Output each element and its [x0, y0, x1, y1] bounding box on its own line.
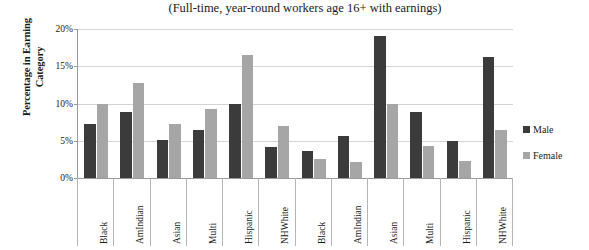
- y-axis-title: Percentage in Earning Category: [20, 0, 46, 147]
- bar-group: [259, 29, 295, 178]
- category-separator: [367, 178, 368, 246]
- bar-group: [223, 29, 259, 178]
- bar-male-multi-9: [410, 112, 422, 178]
- category-separator: [512, 178, 513, 246]
- x-axis-label-nhwhite-11: NHWhite: [498, 178, 508, 244]
- category-separator: [186, 178, 187, 246]
- bar-group: [368, 29, 404, 178]
- x-axis-label-asian-8: Asian: [389, 178, 399, 244]
- bar-female-nhwhite-5: [278, 126, 290, 178]
- y-tick-label: 20%: [33, 24, 73, 34]
- bar-male-black-6: [302, 151, 314, 178]
- legend-swatch-female: [523, 152, 530, 159]
- bar-group: [332, 29, 368, 178]
- chart-title: (Full-time, year-round workers age 16+ w…: [90, 1, 520, 15]
- x-axis-label-amindian-7: AmIndian: [353, 178, 363, 244]
- bar-female-hispanic-4: [242, 55, 254, 178]
- chart-legend: MaleFemale: [523, 124, 562, 176]
- category-separator: [440, 178, 441, 246]
- x-axis-label-nhwhite-5: NHWhite: [280, 178, 290, 244]
- bar-female-multi-9: [423, 146, 435, 178]
- bar-group: [296, 29, 332, 178]
- y-tick-label: 0%: [33, 173, 73, 183]
- y-tick-label: 5%: [33, 136, 73, 146]
- category-separator: [331, 178, 332, 246]
- chart-figure: (Full-time, year-round workers age 16+ w…: [0, 0, 589, 250]
- bar-male-asian-2: [157, 140, 169, 178]
- bar-group: [404, 29, 440, 178]
- x-axis-label-multi-3: Multi: [208, 178, 218, 244]
- bar-male-hispanic-4: [229, 104, 241, 179]
- bar-female-multi-3: [205, 109, 217, 178]
- x-axis-label-hispanic-4: Hispanic: [244, 178, 254, 244]
- category-separator: [77, 178, 78, 246]
- legend-item-male[interactable]: Male: [523, 124, 562, 135]
- bar-group: [187, 29, 223, 178]
- x-axis-label-asian-2: Asian: [172, 178, 182, 244]
- category-separator: [222, 178, 223, 246]
- bar-group: [441, 29, 477, 178]
- bar-female-amindian-1: [133, 83, 145, 178]
- x-axis-category-labels: BlackAmIndianAsianMultiHispanicNHWhiteBl…: [77, 178, 513, 248]
- bar-series-container: [78, 29, 513, 178]
- x-axis-label-black-6: Black: [317, 178, 327, 244]
- x-axis-label-amindian-1: AmIndian: [135, 178, 145, 244]
- x-axis-label-multi-9: Multi: [425, 178, 435, 244]
- legend-item-female[interactable]: Female: [523, 150, 562, 161]
- bar-group: [477, 29, 513, 178]
- bar-male-amindian-1: [120, 112, 132, 178]
- bar-female-hispanic-10: [459, 161, 471, 178]
- bar-female-black-0: [97, 104, 109, 179]
- bar-female-nhwhite-11: [495, 130, 507, 178]
- bar-male-hispanic-10: [447, 141, 459, 178]
- bar-female-amindian-7: [350, 162, 362, 178]
- legend-label-male: Male: [533, 124, 554, 135]
- x-axis-label-hispanic-10: Hispanic: [462, 178, 472, 244]
- category-separator: [476, 178, 477, 246]
- bar-group: [151, 29, 187, 178]
- category-separator: [295, 178, 296, 246]
- y-axis-title-line2: Category: [33, 0, 46, 147]
- category-separator: [258, 178, 259, 246]
- bar-male-nhwhite-11: [483, 57, 495, 178]
- legend-label-female: Female: [533, 150, 562, 161]
- bar-group: [78, 29, 114, 178]
- bar-male-black-0: [84, 124, 96, 178]
- bar-male-asian-8: [374, 36, 386, 178]
- legend-swatch-male: [523, 126, 530, 133]
- bar-male-amindian-7: [338, 136, 350, 178]
- category-separator: [113, 178, 114, 246]
- plot-area: [77, 29, 513, 178]
- category-separator: [150, 178, 151, 246]
- bar-female-asian-2: [169, 124, 181, 178]
- bar-male-nhwhite-5: [265, 147, 277, 178]
- category-separator: [403, 178, 404, 246]
- y-tick-label: 10%: [33, 99, 73, 109]
- y-axis-title-line1: Percentage in Earning: [21, 18, 32, 116]
- y-tick-label: 15%: [33, 61, 73, 71]
- bar-group: [114, 29, 150, 178]
- bar-female-asian-8: [387, 104, 399, 179]
- bar-female-black-6: [314, 159, 326, 178]
- x-axis-label-black-0: Black: [99, 178, 109, 244]
- bar-male-multi-3: [193, 130, 205, 178]
